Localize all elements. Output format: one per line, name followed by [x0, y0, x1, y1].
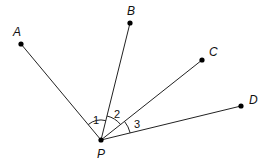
point-D [238, 103, 243, 108]
angle-label-2: 2 [114, 108, 120, 120]
label-A: A [12, 25, 21, 39]
label-C: C [209, 45, 218, 59]
point-B [127, 20, 132, 25]
angle-label-3: 3 [134, 118, 140, 130]
label-B: B [127, 4, 135, 18]
point-P [98, 137, 103, 142]
ray-PA [21, 44, 101, 140]
label-P: P [97, 147, 105, 161]
point-C [199, 57, 204, 62]
angle-arc-3 [125, 121, 131, 133]
label-D: D [249, 93, 258, 107]
angle-diagram: A B C D P 1 2 3 [0, 0, 270, 163]
point-A [18, 41, 23, 46]
angle-label-1: 1 [93, 114, 99, 126]
